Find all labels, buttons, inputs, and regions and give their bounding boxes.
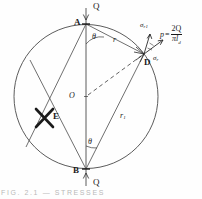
chord-a-to-rim-left: [26, 24, 86, 147]
angle-arc-bottom: [86, 146, 97, 148]
formula-denominator-d: d: [178, 40, 181, 45]
angle-label-bottom: θ: [88, 138, 92, 146]
formula-lhs: p: [160, 30, 164, 39]
point-label-a: A: [74, 18, 81, 27]
radius-label-r: r: [113, 36, 116, 44]
point-label-b: B: [73, 166, 79, 175]
point-label-d: D: [144, 58, 151, 67]
radius-label-r1-subscript: 1: [123, 115, 126, 120]
stress-label-sigma-r: σr: [153, 55, 158, 62]
point-label-o: O: [69, 92, 75, 100]
stress-label-sigma-r-subscript: r: [156, 57, 158, 62]
load-label-bottom: Q: [93, 178, 100, 187]
figure-caption: FIG. 2.1 — STRESSES: [1, 190, 105, 196]
figure-container: Q A B Q D O E θ θ r r1 σr1 σr p = 2Q πld…: [0, 0, 202, 199]
stress-vector-sigma-r1: [144, 34, 150, 54]
caption-strip: FIG. 2.1 — STRESSES: [0, 190, 202, 199]
marker-x-at-e: [36, 109, 53, 127]
formula-denominator: πld: [171, 35, 182, 45]
pressure-formula: p = 2Q πld: [160, 25, 182, 45]
formula-fraction: 2Q πld: [171, 25, 183, 45]
stress-label-sigma-r1: σr1: [140, 22, 148, 29]
load-label-top: Q: [93, 2, 100, 11]
chord-b-to-d: [86, 54, 144, 169]
formula-equals: =: [165, 30, 170, 39]
point-label-e: E: [53, 112, 59, 121]
angle-label-top: θ: [92, 33, 96, 41]
stress-label-sigma-r1-subscript: r1: [143, 24, 147, 29]
radius-label-r1: r1: [120, 112, 126, 120]
